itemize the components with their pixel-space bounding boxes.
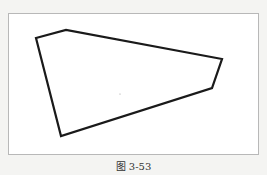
pentagon-outline — [36, 30, 222, 136]
figure-canvas — [0, 0, 267, 175]
center-dot — [119, 93, 120, 94]
figure-caption: 图 3-53 — [0, 158, 267, 173]
